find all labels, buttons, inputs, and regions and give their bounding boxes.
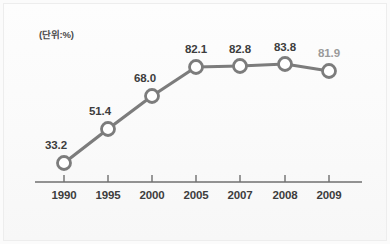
data-point-2007: [234, 60, 247, 73]
x-axis-ticks: [64, 175, 329, 182]
data-point-1990: [58, 157, 71, 170]
unit-note-label: (단위:%): [39, 27, 74, 41]
data-point-2005: [190, 61, 203, 74]
value-label-2008: 83.8: [274, 41, 296, 53]
data-point-2009: [323, 65, 336, 78]
tick-label-2007: 2007: [227, 189, 252, 201]
tick-label-2008: 2008: [272, 189, 297, 201]
tick-label-2005: 2005: [183, 189, 208, 201]
data-point-2000: [146, 90, 159, 103]
tick-label-2000: 2000: [139, 189, 164, 201]
tick-label-1990: 1990: [51, 189, 76, 201]
chart-figure: (단위:%) 33.251.468.082.182.883.881.9 1990…: [0, 0, 390, 244]
value-label-1990: 33.2: [45, 139, 67, 151]
value-label-2009: 81.9: [318, 47, 340, 59]
value-label-2000: 68.0: [134, 72, 156, 84]
tick-label-1995: 1995: [95, 189, 120, 201]
tick-label-2009: 2009: [316, 189, 341, 201]
data-point-2008: [279, 58, 292, 71]
value-label-2005: 82.1: [185, 43, 207, 55]
value-label-1995: 51.4: [89, 105, 111, 117]
data-point-1995: [102, 123, 115, 136]
value-label-2007: 82.8: [229, 43, 251, 55]
